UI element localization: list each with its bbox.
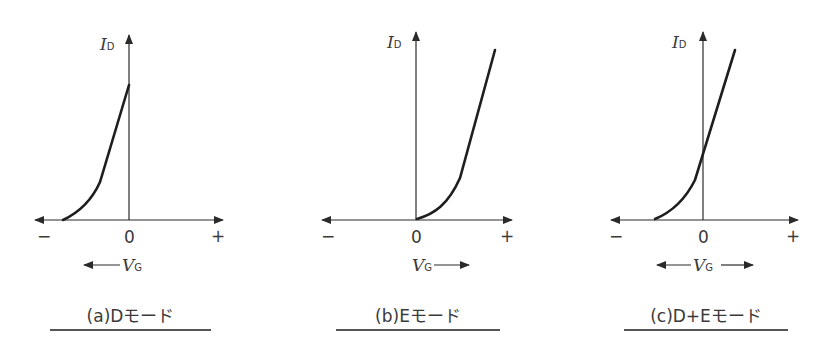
panel-c-tick-plus: + — [786, 228, 800, 245]
panel-a-vg-label: VG — [122, 257, 142, 274]
panel-a-id-label: ID — [100, 36, 114, 53]
panel-c-id-label: ID — [672, 34, 686, 51]
panel-b-caption: (b)Eモード — [336, 308, 500, 325]
panel-c-curve — [655, 50, 735, 219]
panel-b-tick-minus: − — [321, 228, 335, 245]
panel-c-vg-label: VG — [693, 257, 713, 274]
panel-c-caption-underline — [624, 329, 788, 331]
panel-c-caption: (c)D+Eモード — [624, 308, 788, 325]
panel-a-curve — [63, 85, 129, 220]
panel-b-tick-zero: 0 — [411, 229, 422, 246]
panel-a-caption-underline — [50, 329, 211, 331]
panel-b-tick-plus: + — [500, 228, 514, 245]
panel-b-vg-label: VG — [412, 257, 432, 274]
panel-a-tick-minus: − — [37, 228, 51, 245]
panel-a-caption: (a)Dモード — [50, 308, 211, 325]
panel-b-caption-underline — [336, 329, 500, 331]
panel-c-tick-minus: − — [609, 228, 623, 245]
panel-b-curve — [417, 50, 495, 219]
panel-a-tick-plus: + — [211, 228, 225, 245]
panel-c-tick-zero: 0 — [698, 229, 709, 246]
panel-a-tick-zero: 0 — [124, 229, 135, 246]
panel-b-id-label: ID — [387, 34, 401, 51]
